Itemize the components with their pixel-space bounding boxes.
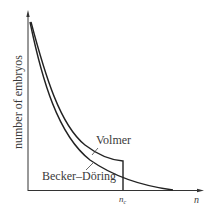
- y-axis-label: number of embryos: [11, 55, 25, 149]
- volmer-leader: [92, 148, 98, 155]
- becker-doring-curve: [30, 22, 173, 190]
- x-axis-arrow-icon: [197, 189, 204, 192]
- becker-doring-label: Becker–Döring: [42, 169, 116, 183]
- volmer-curve: [31, 22, 123, 190]
- y-axis-arrow-icon: [26, 10, 29, 17]
- x-axis-label: n: [194, 194, 199, 205]
- volmer-label: Volmer: [96, 133, 131, 147]
- nucleation-diagram: number of embryos Volmer Becker–Döring n…: [0, 0, 211, 220]
- nc-tick-label: nc: [119, 194, 127, 205]
- nc-sub: c: [124, 199, 127, 205]
